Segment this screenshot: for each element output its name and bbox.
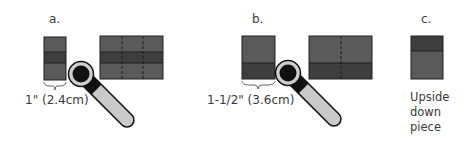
panel-a-strip <box>44 37 66 80</box>
panel-b-strip <box>242 36 275 79</box>
panel-b-measurement: 1-1/2" (3.6cm) <box>207 93 294 107</box>
block-band-light <box>100 36 163 52</box>
strip-band-light <box>44 37 66 52</box>
strip-band-light <box>242 36 275 63</box>
strip-band-dark <box>242 63 275 79</box>
panel-c-strip <box>411 36 443 79</box>
panel-a: a. 1" (2.4cm) <box>25 12 163 130</box>
strip-band-light <box>411 51 443 79</box>
panel-c-caption-line-2: down <box>410 105 441 119</box>
panel-a-label: a. <box>49 12 60 26</box>
panel-c-caption-line-1: Upside <box>410 90 449 104</box>
panel-c-label: c. <box>421 12 431 26</box>
panel-b-block <box>309 36 372 79</box>
panel-b-label: b. <box>252 12 263 26</box>
quilting-diagram: a. 1" (2.4cm) <box>0 0 465 147</box>
strip-band-light <box>44 63 66 80</box>
cutter-blade <box>73 66 90 83</box>
brace-icon <box>242 81 275 89</box>
brace-icon <box>44 82 66 90</box>
panel-a-block <box>100 36 163 79</box>
block-band-light <box>100 63 163 79</box>
panel-c-caption-line-3: piece <box>410 120 441 134</box>
strip-band-dark <box>411 36 443 51</box>
panel-a-measurement: 1" (2.4cm) <box>25 93 89 107</box>
panel-b: b. 1-1/2" (3.6cm) <box>207 12 372 129</box>
block-band-dark <box>100 52 163 63</box>
panel-c: c. Upside down piece <box>410 12 449 134</box>
strip-band-dark <box>44 52 66 63</box>
cutter-blade <box>280 65 297 82</box>
